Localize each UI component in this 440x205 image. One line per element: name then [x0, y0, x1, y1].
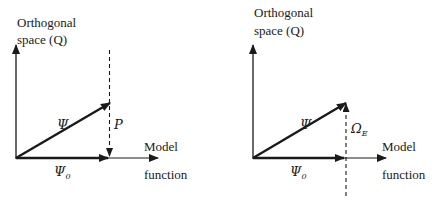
left-projection-label: P — [114, 118, 123, 131]
left-psi0-base: Ψ — [54, 164, 65, 179]
right-y-axis-label-line1: Orthogonal — [254, 6, 313, 19]
right-omega-subscript: E — [362, 129, 368, 138]
right-x-axis-label-line2: function — [382, 168, 425, 181]
right-psi0-label: Ψ0 — [290, 165, 307, 181]
left-psi0-subscript: 0 — [65, 172, 70, 181]
left-x-axis-label-line1: Model — [144, 140, 178, 153]
right-psi0-subscript: 0 — [301, 172, 306, 181]
right-psi0-base: Ψ — [290, 164, 301, 179]
left-psi-label: Ψ — [57, 118, 68, 131]
left-psi0-label: Ψ0 — [54, 165, 71, 181]
left-x-axis-label-line2: function — [144, 168, 187, 181]
right-error-label: ΩE — [351, 122, 368, 138]
left-y-axis-label-line2: space (Q) — [17, 33, 67, 46]
right-diagram — [253, 45, 386, 196]
left-diagram — [16, 45, 158, 159]
right-x-axis-label-line1: Model — [382, 140, 416, 153]
left-y-axis-label-line1: Orthogonal — [17, 16, 76, 29]
right-psi-label: Ψ — [300, 118, 311, 131]
right-y-axis-label-line2: space (Q) — [254, 24, 304, 37]
right-omega-base: Ω — [351, 121, 362, 136]
